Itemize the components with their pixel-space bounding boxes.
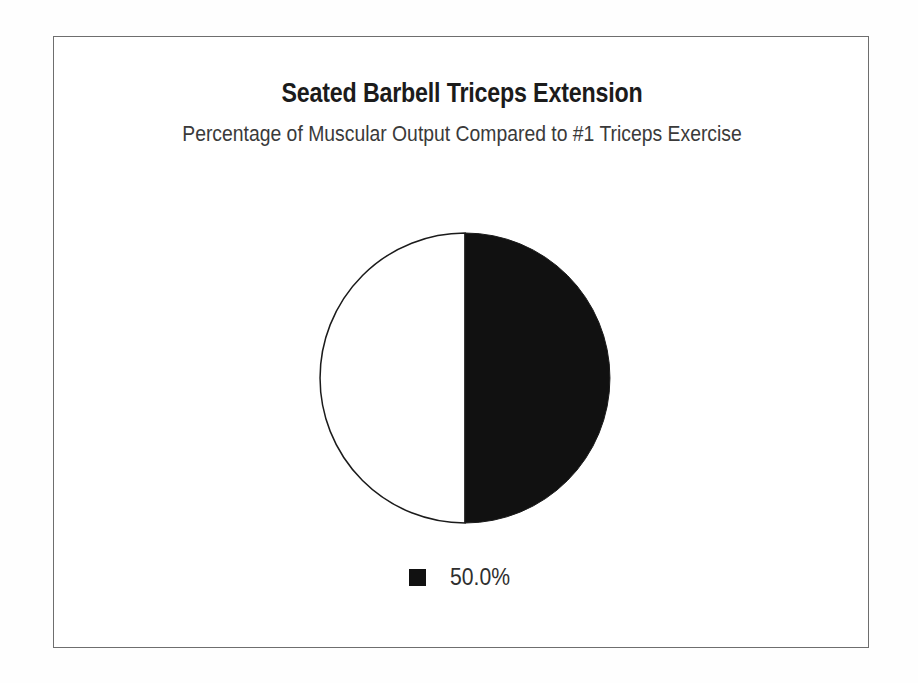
pie-chart xyxy=(270,197,660,559)
scanned-page: Seated Barbell Triceps Extension Percent… xyxy=(0,0,918,683)
chart-title: Seated Barbell Triceps Extension xyxy=(111,78,813,108)
chart-subtitle: Percentage of Muscular Output Compared t… xyxy=(103,121,821,147)
legend-item-label: 50.0% xyxy=(450,566,510,589)
pie-slice-remainder[interactable] xyxy=(320,233,465,523)
chart-frame: Seated Barbell Triceps Extension Percent… xyxy=(53,36,869,648)
legend-item[interactable]: 50.0% xyxy=(409,566,515,589)
legend-swatch-icon xyxy=(409,569,426,586)
pie-slice-50-percent[interactable] xyxy=(465,233,610,523)
legend: 50.0% xyxy=(54,559,870,595)
